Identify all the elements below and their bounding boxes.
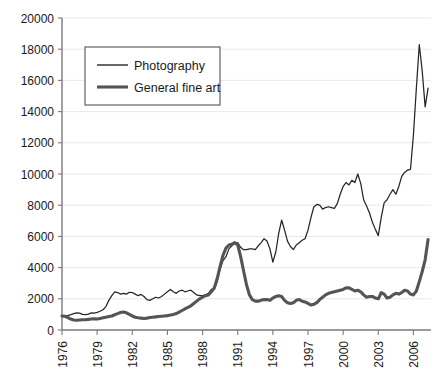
x-axis-tick-label: 2006 [407, 341, 421, 368]
y-axis-tick-label: 6000 [27, 230, 54, 244]
y-axis-tick-label: 20000 [21, 12, 55, 26]
line-chart: 0200040006000800010000120001400016000180… [0, 0, 447, 380]
y-axis-tick-label: 18000 [21, 43, 55, 57]
y-axis-tick-label: 16000 [21, 74, 55, 88]
legend-box [85, 47, 220, 105]
x-axis-ticks-group: 1976197919821985198819911994199720002003… [56, 330, 421, 368]
y-axis-tick-label: 4000 [27, 261, 54, 275]
x-axis-tick-label: 1985 [161, 341, 175, 368]
y-axis-tick-label: 14000 [21, 105, 55, 119]
series-line-general-fine-art [62, 240, 428, 321]
x-axis-tick-label: 1988 [196, 341, 210, 368]
y-axis-tick-label: 0 [47, 324, 54, 338]
x-axis-tick-label: 1976 [56, 341, 70, 368]
y-axis-tick-label: 2000 [27, 292, 54, 306]
x-axis-tick-label: 1979 [91, 341, 105, 368]
legend-item-label: General fine art [134, 81, 221, 95]
x-axis-tick-label: 2000 [337, 341, 351, 368]
x-axis-tick-label: 1982 [126, 341, 140, 368]
y-axis-ticks-group: 0200040006000800010000120001400016000180… [21, 12, 62, 338]
x-axis-tick-label: 1997 [302, 341, 316, 368]
y-axis-tick-label: 8000 [27, 199, 54, 213]
x-axis-tick-label: 2003 [372, 341, 386, 368]
chart-legend: PhotographyGeneral fine art [85, 47, 221, 105]
legend-item-label: Photography [134, 59, 206, 73]
y-axis-tick-label: 12000 [21, 136, 55, 150]
x-axis-tick-label: 1994 [266, 341, 280, 368]
chart-container: 0200040006000800010000120001400016000180… [0, 0, 447, 380]
y-axis-tick-label: 10000 [21, 168, 55, 182]
x-axis-tick-label: 1991 [231, 341, 245, 368]
